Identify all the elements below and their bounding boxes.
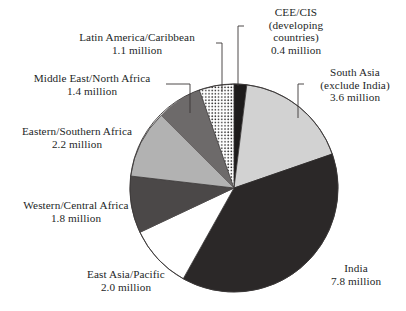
- label-middle-east-north-africa: Middle East/North Africa 1.4 million: [16, 72, 168, 97]
- label-western-central-africa: Western/Central Africa 1.8 million: [2, 199, 150, 224]
- label-india-line1: India: [312, 262, 400, 275]
- label-south-asia: South Asia (exclude India) 3.6 million: [306, 66, 404, 104]
- label-latin-america-caribbean-value: 1.1 million: [56, 44, 218, 57]
- label-india-value: 7.8 million: [312, 275, 400, 288]
- label-western-central-africa-value: 1.8 million: [2, 212, 150, 225]
- label-cee-cis-line2: (developing: [248, 19, 344, 32]
- label-east-asia-pacific-line1: East Asia/Pacific: [60, 268, 192, 281]
- label-eastern-southern-africa-value: 2.2 million: [2, 138, 152, 151]
- label-eastern-southern-africa: Eastern/Southern Africa 2.2 million: [2, 125, 152, 150]
- label-east-asia-pacific-value: 2.0 million: [60, 281, 192, 294]
- label-south-asia-line1: South Asia: [306, 66, 404, 79]
- label-western-central-africa-line1: Western/Central Africa: [2, 199, 150, 212]
- label-south-asia-value: 3.6 million: [306, 91, 404, 104]
- label-middle-east-north-africa-value: 1.4 million: [16, 85, 168, 98]
- label-latin-america-caribbean: Latin America/Caribbean 1.1 million: [56, 31, 218, 56]
- label-cee-cis-line3: countries): [248, 31, 344, 44]
- label-cee-cis-line1: CEE/CIS: [248, 6, 344, 19]
- pie-chart-page: CEE/CIS (developing countries) 0.4 milli…: [0, 0, 406, 311]
- label-cee-cis: CEE/CIS (developing countries) 0.4 milli…: [248, 6, 344, 56]
- label-south-asia-line2: (exclude India): [306, 79, 404, 92]
- leader-line-cee-cis: [238, 26, 244, 86]
- label-east-asia-pacific: East Asia/Pacific 2.0 million: [60, 268, 192, 293]
- label-eastern-southern-africa-line1: Eastern/Southern Africa: [2, 125, 152, 138]
- label-middle-east-north-africa-line1: Middle East/North Africa: [16, 72, 168, 85]
- label-india: India 7.8 million: [312, 262, 400, 287]
- label-cee-cis-value: 0.4 million: [248, 44, 344, 57]
- label-latin-america-caribbean-line1: Latin America/Caribbean: [56, 31, 218, 44]
